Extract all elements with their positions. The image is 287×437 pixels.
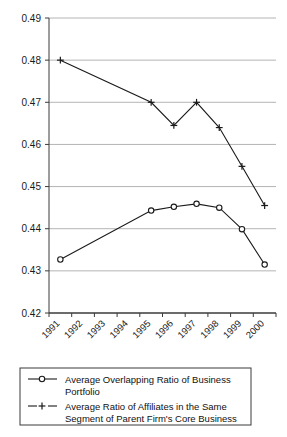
chart-legend: Average Overlapping Ratio of BusinessPor… [20,368,251,425]
y-axis-tick-label: 0.45 [22,181,42,192]
y-axis-tick-label: 0.43 [22,265,42,276]
legend-label: Segment of Parent Firm's Core Business [65,413,237,424]
chart-container: 0.490.480.470.460.450.440.430.42 1991199… [0,0,287,437]
data-point-marker-circle [58,257,63,262]
y-axis-tick-label: 0.44 [22,223,42,234]
data-point-marker-circle [262,262,267,267]
y-axis-tick-label: 0.42 [22,308,42,319]
legend-label: Portfolio [65,386,100,397]
legend-label: Average Overlapping Ratio of Business [65,374,231,385]
y-axis-tick-label: 0.47 [22,97,42,108]
y-axis-tick-label: 0.49 [22,13,42,24]
data-point-marker-circle [217,205,222,210]
legend-marker-circle [39,376,44,381]
data-point-marker-circle [171,204,176,209]
line-chart: 0.490.480.470.460.450.440.430.42 1991199… [0,0,287,437]
legend-label: Average Ratio of Affiliates in the Same [65,401,227,412]
y-axis-tick-label: 0.46 [22,139,42,150]
y-axis-tick-label: 0.48 [22,55,42,66]
data-point-marker-circle [194,201,199,206]
data-point-marker-circle [148,208,153,213]
data-point-marker-circle [239,226,244,231]
